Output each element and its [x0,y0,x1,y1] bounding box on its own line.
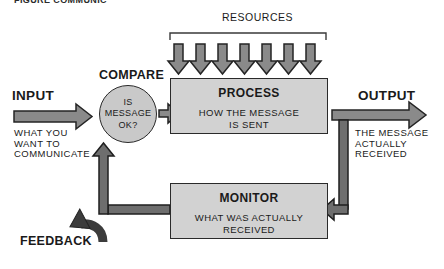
feedback-label: FEEDBACK [20,234,92,248]
output-drop-vertical [339,120,348,209]
feedback-curve-arrowhead [65,209,90,236]
input-description: WHAT YOU WANT TO COMMUNICATE [14,128,90,160]
compare-label: COMPARE [99,68,164,82]
resource-arrow [278,44,299,74]
monitor-feedback-horizontal [108,205,170,214]
monitor-subtitle: WHAT WAS ACTUALLY RECEIVED [171,212,327,236]
feedback-to-compare-arrow [93,143,114,214]
resource-arrow [234,44,255,74]
resource-arrow [300,44,321,74]
resource-arrow [168,44,189,74]
process-box: PROCESS HOW THE MESSAGE IS SENT [170,78,328,134]
monitor-box: MONITOR WHAT WAS ACTUALLY RECEIVED [170,183,328,239]
input-label: INPUT [12,88,54,103]
resource-arrows-group [168,44,321,74]
compare-decision-circle: IS MESSAGE OK? [99,85,157,143]
resource-arrow [256,44,277,74]
communication-process-diagram: FIGURE COMMUNIC [0,0,444,269]
monitor-title: MONITOR [171,191,327,205]
compare-circle-text: IS MESSAGE OK? [105,97,152,131]
resources-bracket [170,33,326,40]
resources-label: RESOURCES [222,12,293,24]
process-title: PROCESS [171,86,327,100]
resource-arrow [190,44,211,74]
output-description: THE MESSAGE ACTUALLY RECEIVED [355,128,429,160]
resource-arrow [212,44,233,74]
output-label: OUTPUT [358,88,415,103]
input-arrow [14,104,92,129]
process-subtitle: HOW THE MESSAGE IS SENT [171,107,327,131]
